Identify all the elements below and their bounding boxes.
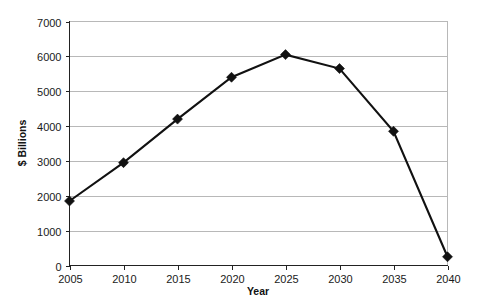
x-tick-label: 2035 <box>382 273 406 285</box>
y-tick-label: 0 <box>55 261 61 273</box>
chart-background <box>0 0 503 307</box>
x-axis-title: Year <box>247 285 269 297</box>
y-tick-label: 7000 <box>37 17 61 29</box>
x-tick-label: 2010 <box>112 273 136 285</box>
x-tick-label: 2005 <box>58 273 82 285</box>
y-tick-label: 2000 <box>37 191 61 203</box>
y-tick-label: 5000 <box>37 86 61 98</box>
x-tick-label: 2025 <box>274 273 298 285</box>
x-tick-label: 2015 <box>166 273 190 285</box>
y-axis-title: $ Billions <box>16 120 28 167</box>
x-tick-label: 2030 <box>328 273 352 285</box>
chart-canvas: 01000200030004000500060007000 2005201020… <box>0 0 503 307</box>
y-tick-label: 1000 <box>37 226 61 238</box>
x-tick-label: 2040 <box>436 273 460 285</box>
y-tick-label: 6000 <box>37 51 61 63</box>
line-chart: 01000200030004000500060007000 2005201020… <box>0 0 503 307</box>
y-tick-label: 3000 <box>37 156 61 168</box>
y-tick-label: 4000 <box>37 121 61 133</box>
x-tick-label: 2020 <box>220 273 244 285</box>
